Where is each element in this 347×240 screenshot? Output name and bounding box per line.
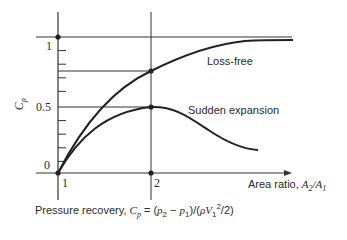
- x-axis-label-text: Area ratio,: [248, 178, 302, 190]
- ytick-1: 1: [46, 39, 52, 54]
- legend-sudden-expansion: Sudden expansion: [188, 104, 279, 116]
- x-axis-arrow-icon: [284, 170, 292, 176]
- point-cp-1: [55, 34, 60, 39]
- x-axis-label: Area ratio, A2/A1: [248, 178, 326, 193]
- caption-text: Pressure recovery,: [35, 204, 130, 216]
- y-axis-label: Cp: [12, 98, 28, 110]
- point-origin: [55, 170, 60, 175]
- legend-loss-free: Loss-free: [207, 55, 253, 67]
- ytick-0: 0: [44, 158, 50, 173]
- point-sudden-x2: [148, 104, 153, 109]
- point-x2: [148, 170, 153, 175]
- chart-caption: Pressure recovery, Cp = (p2 − p1)/(ρV12/…: [35, 202, 234, 219]
- xtick-2: 2: [154, 176, 160, 191]
- y-minor-ticks: [58, 51, 66, 162]
- point-loss-free-x2: [148, 68, 153, 73]
- series-sudden-expansion: [58, 107, 258, 173]
- xtick-1: 1: [62, 176, 68, 191]
- ytick-0-5: 0.5: [36, 100, 51, 115]
